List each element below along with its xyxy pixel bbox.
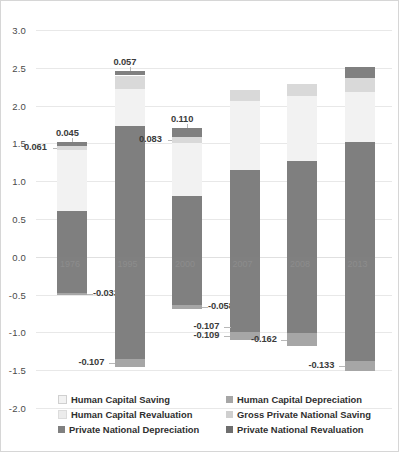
bar-segment[interactable]	[345, 361, 375, 371]
bar-segment[interactable]	[172, 128, 202, 136]
x-axis-category-label: 2007	[233, 259, 253, 269]
legend-item-human-capital-saving[interactable]: Human Capital Saving	[58, 395, 226, 404]
bar-segment[interactable]	[287, 96, 317, 161]
bar-segment[interactable]	[345, 142, 375, 257]
bar-value-callout: 0.061	[24, 142, 47, 152]
bar-segment[interactable]	[115, 71, 145, 75]
bar-group	[345, 30, 375, 408]
legend-swatch-icon	[226, 411, 233, 418]
legend-label: Human Capital Depreciation	[237, 395, 362, 404]
bar-group	[287, 30, 317, 408]
legend-label: Human Capital Saving	[71, 395, 170, 404]
y-axis-tick-label: 2.5	[12, 62, 26, 73]
plot-area: 3.02.52.01.51.00.50.0-0.5-1.0-1.5-2.0 0.…	[36, 30, 392, 408]
legend-label: Gross Private National Saving	[237, 410, 371, 419]
bar-segment[interactable]	[115, 126, 145, 257]
bar-segment[interactable]	[57, 293, 87, 295]
legend-item-human-capital-revaluation[interactable]: Human Capital Revaluation	[58, 410, 226, 419]
bar-segment[interactable]	[57, 146, 87, 151]
bar-value-callout: -0.133	[309, 360, 335, 370]
bar-segment[interactable]	[287, 84, 317, 96]
x-axis-category-label: 2008	[290, 259, 310, 269]
legend-item-gross-private-national-saving[interactable]: Gross Private National Saving	[226, 410, 371, 419]
bar-group	[172, 30, 202, 408]
bar-segment[interactable]	[345, 67, 375, 78]
y-axis-tick-label: -1.0	[9, 327, 26, 338]
legend-row: Human Capital Saving Human Capital Depre…	[58, 392, 390, 407]
bar-segment[interactable]	[115, 89, 145, 126]
bar-value-callout: 0.083	[139, 134, 162, 144]
x-axis-category-label: 1976	[60, 259, 80, 269]
y-axis-tick-label: 0.0	[12, 251, 26, 262]
bar-segment[interactable]	[172, 196, 202, 257]
bar-value-callout: -0.107	[194, 321, 220, 331]
bar-segment[interactable]	[172, 143, 202, 196]
chart-legend: Human Capital Saving Human Capital Depre…	[58, 392, 390, 437]
bar-group	[230, 30, 260, 408]
bar-segment[interactable]	[287, 333, 317, 345]
x-axis-category-label: 1995	[118, 259, 138, 269]
legend-swatch-icon	[58, 410, 67, 419]
y-axis-tick-label: -0.5	[9, 289, 26, 300]
y-axis-tick-label: 0.5	[12, 214, 26, 225]
y-axis-tick-label: 1.0	[12, 176, 26, 187]
bar-segment[interactable]	[230, 170, 260, 257]
bar-group	[57, 30, 87, 408]
bar-segment[interactable]	[345, 78, 375, 92]
bar-segment[interactable]	[230, 90, 260, 101]
x-axis-category-label: 2013	[348, 259, 368, 269]
legend-item-private-national-revaluation[interactable]: Private National Revaluation	[226, 425, 364, 434]
bar-segment[interactable]	[57, 211, 87, 257]
bars-layer: 0.6090.7980.0610.045-0.479-0.03319761.73…	[36, 30, 392, 408]
bar-segment[interactable]	[230, 101, 260, 170]
legend-swatch-icon	[58, 426, 65, 433]
bar-segment[interactable]	[172, 137, 202, 143]
bar-segment[interactable]	[345, 92, 375, 142]
bar-value-callout: -0.162	[251, 334, 277, 344]
legend-label: Human Capital Revaluation	[71, 410, 192, 419]
legend-item-human-capital-depreciation[interactable]: Human Capital Depreciation	[226, 395, 362, 404]
bar-segment[interactable]	[287, 161, 317, 257]
bar-group	[115, 30, 145, 408]
bar-segment[interactable]	[115, 76, 145, 89]
bar-value-callout: -0.107	[79, 357, 105, 367]
legend-swatch-icon	[226, 426, 233, 433]
bar-value-callout: -0.109	[194, 330, 220, 340]
bar-segment[interactable]	[57, 142, 87, 145]
legend-row: Human Capital Revaluation Gross Private …	[58, 407, 390, 422]
bar-segment[interactable]	[345, 257, 375, 361]
legend-item-private-national-depreciation[interactable]: Private National Depreciation	[58, 425, 226, 434]
legend-label: Private National Revaluation	[237, 425, 364, 434]
legend-swatch-icon	[58, 395, 67, 404]
bar-segment[interactable]	[57, 150, 87, 210]
stacked-bar-chart: 3.02.52.01.51.00.50.0-0.5-1.0-1.5-2.0 0.…	[0, 0, 400, 453]
y-axis-tick-label: 2.0	[12, 100, 26, 111]
bar-segment[interactable]	[172, 305, 202, 309]
callout-leader	[224, 327, 231, 328]
legend-swatch-icon	[226, 396, 233, 403]
y-axis-tick-label: -1.5	[9, 365, 26, 376]
bar-segment[interactable]	[115, 257, 145, 359]
y-axis-tick-label: -2.0	[9, 403, 26, 414]
x-axis-category-label: 2000	[175, 259, 195, 269]
legend-label: Private National Depreciation	[69, 425, 199, 434]
legend-row: Private National Depreciation Private Na…	[58, 422, 390, 437]
bar-segment[interactable]	[115, 359, 145, 367]
y-axis-tick-label: 3.0	[12, 25, 26, 36]
